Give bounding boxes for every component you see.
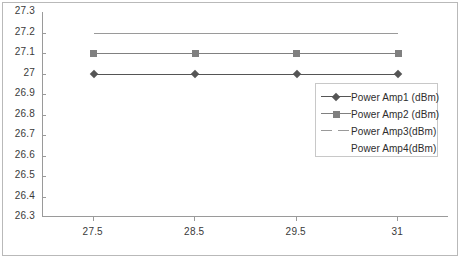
y-axis-tick-mark bbox=[42, 176, 46, 177]
y-axis-tick-label: 26.6 bbox=[15, 149, 35, 160]
x-axis-tick-mark bbox=[194, 217, 195, 221]
series-data-point bbox=[293, 50, 300, 57]
series-line-segment bbox=[195, 53, 297, 54]
y-axis-tick-label: 26.8 bbox=[15, 108, 35, 119]
x-axis-tick-mark bbox=[296, 217, 297, 221]
y-axis-tick-mark bbox=[42, 115, 46, 116]
y-axis-tick-label: 27.3 bbox=[15, 5, 35, 16]
y-axis-tick-mark bbox=[42, 197, 46, 198]
x-axis-tick-label: 28.5 bbox=[184, 226, 204, 237]
y-axis-tick-label: 26.5 bbox=[15, 169, 35, 180]
y-axis-tick-mark bbox=[42, 74, 46, 75]
y-axis-tick-mark bbox=[42, 156, 46, 157]
y-axis-tick-label: 27.2 bbox=[15, 26, 35, 37]
x-axis-tick-mark bbox=[397, 217, 398, 221]
chart-screenshot: 27.327.227.12726.926.826.726.626.526.426… bbox=[0, 0, 462, 260]
x-axis-tick-label: 27.5 bbox=[83, 226, 103, 237]
series-data-point bbox=[192, 50, 199, 57]
y-axis-tick-label: 27 bbox=[23, 67, 35, 78]
series-line-segment bbox=[94, 74, 196, 75]
legend-item-label: Power Amp1 (dBm) bbox=[351, 92, 439, 103]
series-data-point bbox=[395, 50, 402, 57]
legend-key-square-icon bbox=[321, 107, 351, 121]
legend-item[interactable]: Power Amp1 (dBm) bbox=[316, 88, 437, 106]
x-axis-tick-label: 31 bbox=[391, 226, 403, 237]
y-axis-tick-label: 26.7 bbox=[15, 128, 35, 139]
series-data-point bbox=[191, 69, 199, 77]
series-line-segment bbox=[297, 53, 399, 54]
series-line-segment bbox=[94, 53, 196, 54]
y-axis-tick-mark bbox=[42, 53, 46, 54]
y-axis-tick-label: 26.3 bbox=[15, 210, 35, 221]
legend-item[interactable]: Power Amp3(dBm) bbox=[316, 122, 437, 140]
series-line-segment bbox=[94, 33, 196, 34]
y-axis-tick-label: 26.4 bbox=[15, 190, 35, 201]
y-axis-tick-label: 26.9 bbox=[15, 87, 35, 98]
y-axis-tick-label: 27.1 bbox=[15, 46, 35, 57]
chart-legend: Power Amp1 (dBm)Power Amp2 (dBm)Power Am… bbox=[315, 83, 438, 157]
legend-item-label: Power Amp3(dBm) bbox=[351, 126, 436, 137]
legend-item-label: Power Amp2 (dBm) bbox=[351, 109, 439, 120]
y-axis-tick-mark bbox=[42, 135, 46, 136]
series-line-segment bbox=[195, 74, 297, 75]
legend-item-label: Power Amp4(dBm) bbox=[351, 143, 436, 154]
x-axis-tick-label: 29.5 bbox=[286, 226, 306, 237]
series-line-segment bbox=[297, 74, 399, 75]
series-data-point bbox=[90, 69, 98, 77]
y-axis-tick-mark bbox=[42, 94, 46, 95]
series-line-segment bbox=[297, 33, 399, 34]
series-line-segment bbox=[195, 33, 297, 34]
series-data-point bbox=[394, 69, 402, 77]
y-axis-tick-mark bbox=[42, 33, 46, 34]
legend-item[interactable]: Power Amp4(dBm) bbox=[316, 139, 437, 157]
x-axis-tick-mark bbox=[93, 217, 94, 221]
legend-item[interactable]: Power Amp2 (dBm) bbox=[316, 105, 437, 123]
legend-key-diamond-icon bbox=[321, 90, 351, 104]
legend-key-line-icon bbox=[321, 124, 351, 138]
series-data-point bbox=[90, 50, 97, 57]
series-data-point bbox=[293, 69, 301, 77]
